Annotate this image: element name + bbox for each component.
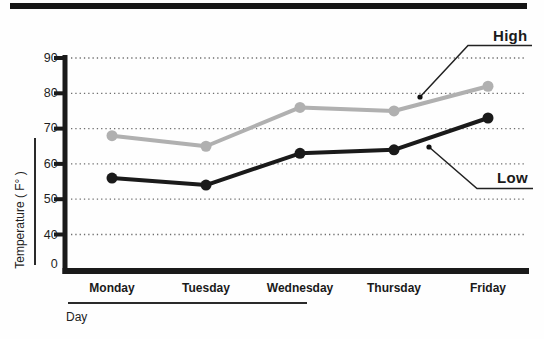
x-tick-monday: Monday bbox=[67, 281, 157, 295]
y-tick-70: 70 bbox=[32, 121, 58, 135]
x-tick-wednesday: Wednesday bbox=[255, 281, 345, 295]
series-label-low: Low bbox=[497, 169, 528, 186]
y-tick-90: 90 bbox=[32, 51, 58, 65]
x-axis-title: Day bbox=[66, 310, 87, 324]
series-label-high: High bbox=[493, 27, 528, 44]
x-tick-tuesday: Tuesday bbox=[161, 281, 251, 295]
x-tick-thursday: Thursday bbox=[349, 281, 439, 295]
y-axis-title: Temperature ( F° ) bbox=[13, 165, 27, 275]
x-tick-friday: Friday bbox=[443, 281, 533, 295]
y-axis-title-underline bbox=[34, 138, 36, 265]
chart-figure: 90 80 70 60 50 40 0 Monday Tuesday Wedne… bbox=[0, 0, 544, 339]
y-tick-80: 80 bbox=[32, 86, 58, 100]
x-axis-title-underline bbox=[68, 302, 307, 304]
